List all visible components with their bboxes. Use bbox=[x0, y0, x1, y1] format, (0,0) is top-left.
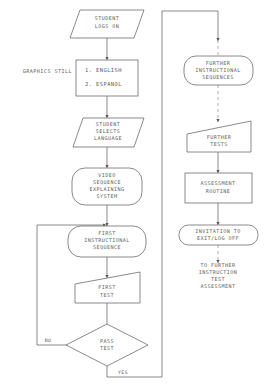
language-menu-rect[interactable] bbox=[76, 60, 138, 96]
first-seq-line3: SEQUENCE bbox=[93, 244, 121, 250]
first-seq-line1: FIRST bbox=[98, 230, 116, 236]
tail-note-line2: INSTRUCTION bbox=[199, 269, 238, 275]
student-logs-on-line1: STUDENT bbox=[95, 15, 120, 21]
invitation-line2: EXIT/LOG OFF bbox=[197, 235, 239, 241]
video-line3: EXPLAINING bbox=[89, 186, 124, 192]
node-further-tests[interactable]: FURTHER TESTS bbox=[187, 121, 251, 152]
further-tests-line1: FURTHER bbox=[207, 134, 232, 140]
tail-note-text: TO FURTHER INSTRUCTION TEST ASSESSMENT bbox=[199, 262, 238, 289]
node-invitation-exit[interactable]: INVITATION TO EXIT/LOG OFF bbox=[179, 225, 258, 245]
selects-line3: LANGUAGE bbox=[94, 135, 122, 141]
further-seq-line3: SEQUENCES bbox=[202, 74, 234, 80]
assessment-line2: ROUTINE bbox=[206, 188, 231, 194]
tail-note-line1: TO FURTHER bbox=[200, 262, 236, 268]
node-pass-test-decision[interactable]: PASS TEST bbox=[66, 324, 148, 366]
tail-note-line4: ASSESSMENT bbox=[200, 283, 235, 289]
selects-line1: STUDENT bbox=[96, 121, 121, 127]
first-seq-line2: INSTRUCTIONAL bbox=[84, 237, 130, 243]
further-seq-line1: FURTHER bbox=[206, 60, 231, 66]
menu-option-english[interactable]: 1. ENGLISH bbox=[85, 67, 122, 73]
student-logs-on-line2: LOGS ON bbox=[95, 23, 120, 29]
video-line4: SYSTEM bbox=[96, 193, 117, 199]
menu-option-espanol[interactable]: 2. ESPANOL bbox=[85, 81, 122, 87]
selects-line2: SELECTS bbox=[96, 128, 121, 134]
node-video-sequence[interactable]: VIDEO SEQUENCE EXPLAINING SYSTEM bbox=[72, 168, 142, 205]
node-first-instructional-sequence[interactable]: FIRST INSTRUCTIONAL SEQUENCE bbox=[68, 226, 146, 257]
tail-note-line3: TEST bbox=[211, 276, 225, 282]
video-line2: SEQUENCE bbox=[93, 179, 121, 185]
first-test-line2: TEST bbox=[100, 292, 114, 298]
invitation-line1: INVITATION TO bbox=[195, 228, 241, 234]
further-seq-line2: INSTRUCTIONAL bbox=[195, 67, 241, 73]
node-language-menu[interactable]: 1. ENGLISH 2. ESPANOL bbox=[76, 60, 138, 96]
further-tests-line2: TESTS bbox=[210, 141, 228, 147]
flowchart-canvas: STUDENT LOGS ON GRAPHICS STILL 1. ENGLIS… bbox=[0, 0, 271, 389]
node-student-selects-language[interactable]: STUDENT SELECTS LANGUAGE bbox=[73, 118, 144, 147]
node-student-logs-on[interactable]: STUDENT LOGS ON bbox=[70, 10, 144, 38]
video-line1: VIDEO bbox=[98, 172, 116, 178]
node-further-instructional-sequences[interactable]: FURTHER INSTRUCTIONAL SEQUENCES bbox=[184, 56, 253, 85]
edge-label-no: NO bbox=[45, 338, 52, 343]
edge-label-yes: YES bbox=[118, 370, 128, 375]
node-assessment-routine[interactable]: ASSESSMENT ROUTINE bbox=[185, 173, 252, 203]
node-first-test[interactable]: FIRST TEST bbox=[75, 272, 140, 303]
decision-line2: TEST bbox=[100, 345, 114, 351]
flowchart-svg: STUDENT LOGS ON GRAPHICS STILL 1. ENGLIS… bbox=[0, 0, 271, 389]
graphics-still-label: GRAPHICS STILL bbox=[23, 68, 72, 74]
first-test-line1: FIRST bbox=[98, 284, 116, 290]
decision-line1: PASS bbox=[100, 338, 114, 344]
assessment-line1: ASSESSMENT bbox=[200, 180, 235, 186]
